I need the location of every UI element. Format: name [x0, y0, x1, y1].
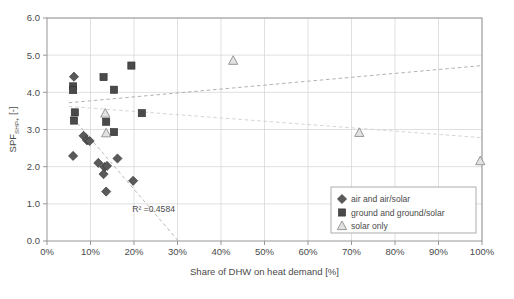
r2-annotation: R² =0.4584 [132, 204, 175, 214]
legend-label: solar only [351, 221, 388, 231]
marker-square [103, 118, 110, 125]
x-tick-label: 70% [342, 246, 362, 257]
legend-label: ground and ground/solar [351, 208, 445, 218]
marker-square [338, 209, 345, 216]
marker-square [138, 110, 145, 117]
x-tick-label: 40% [211, 246, 231, 257]
y-tick-label: 3.0 [27, 124, 40, 135]
marker-square [71, 109, 78, 116]
legend-label: air and air/solar [351, 194, 410, 204]
y-tick-label: 5.0 [27, 50, 40, 61]
y-tick-label: 1.0 [27, 198, 40, 209]
x-tick-label: 20% [124, 246, 144, 257]
marker-square [110, 129, 117, 136]
marker-square [110, 86, 117, 93]
y-tick-label: 6.0 [27, 12, 40, 23]
x-tick-label: 100% [470, 246, 495, 257]
marker-square [70, 87, 77, 94]
x-tick-label: 90% [429, 246, 449, 257]
x-axis-title: Share of DHW on heat demand [%] [190, 266, 339, 277]
marker-square [128, 62, 135, 69]
y-tick-label: 2.0 [27, 161, 40, 172]
x-tick-label: 60% [298, 246, 318, 257]
x-tick-label: 30% [168, 246, 188, 257]
x-tick-label: 80% [385, 246, 405, 257]
y-axis-title-text: SPFSHP+ [-] [7, 107, 20, 153]
x-tick-label: 10% [81, 246, 101, 257]
y-tick-label: 0.0 [27, 235, 40, 246]
marker-square [100, 73, 107, 80]
x-tick-label: 50% [255, 246, 275, 257]
marker-square [70, 117, 77, 124]
legend-item-square[interactable]: ground and ground/solar [338, 208, 444, 218]
chart-canvas: 0%10%20%30%40%50%60%70%80%90%100%0.01.02… [0, 0, 514, 299]
x-tick-label: 0% [40, 246, 54, 257]
y-axis-title: SPFSHP+ [-] [7, 107, 20, 153]
y-tick-label: 4.0 [27, 87, 40, 98]
scatter-chart-figure: 0%10%20%30%40%50%60%70%80%90%100%0.01.02… [0, 0, 514, 299]
